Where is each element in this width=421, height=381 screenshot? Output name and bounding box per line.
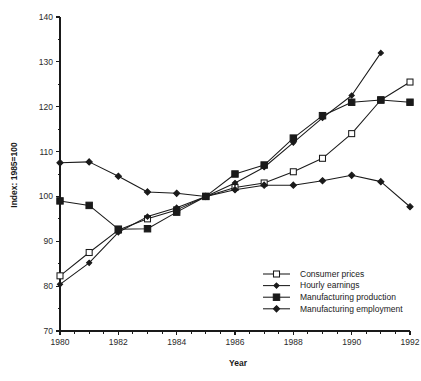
- data-point: [319, 178, 325, 184]
- y-tick-label: 120: [39, 102, 53, 112]
- y-tick-label: 90: [44, 236, 54, 246]
- x-tick-label: 1990: [342, 337, 361, 347]
- legend-marker: [274, 271, 280, 277]
- data-point: [319, 112, 325, 118]
- data-point: [86, 159, 92, 165]
- series-line: [60, 82, 410, 276]
- legend-label: Hourly earnings: [300, 280, 360, 290]
- data-point: [115, 173, 121, 179]
- y-tick-label: 70: [44, 326, 54, 336]
- y-axis-title: Index: 1985=100: [9, 142, 19, 208]
- data-point: [290, 169, 296, 175]
- legend-marker: [273, 306, 279, 312]
- data-point: [144, 189, 150, 195]
- data-point: [86, 202, 92, 208]
- data-point: [349, 131, 355, 137]
- data-point: [407, 79, 413, 85]
- series-line: [60, 100, 410, 229]
- data-point: [86, 250, 92, 256]
- data-point: [261, 162, 267, 168]
- x-axis-ticks: [60, 331, 410, 335]
- x-axis-tick-labels: 1980198219841986198819901992: [51, 337, 420, 347]
- data-point: [290, 135, 296, 141]
- legend-marker: [274, 283, 279, 288]
- x-axis-title: Year: [229, 358, 248, 368]
- data-point: [57, 273, 63, 279]
- legend-label: Consumer prices: [300, 269, 364, 279]
- chart-legend: Consumer pricesHourly earningsManufactur…: [263, 269, 403, 314]
- y-tick-label: 80: [44, 281, 54, 291]
- legend-label: Manufacturing production: [300, 292, 396, 302]
- y-tick-label: 140: [39, 12, 53, 22]
- legend-item-consumer-prices[interactable]: Consumer prices: [263, 269, 364, 279]
- series-line: [60, 53, 381, 284]
- data-point: [232, 171, 238, 177]
- legend-label: Manufacturing employment: [300, 304, 403, 314]
- x-tick-label: 1984: [167, 337, 186, 347]
- data-point: [115, 226, 121, 232]
- x-tick-label: 1988: [284, 337, 303, 347]
- data-point: [144, 226, 150, 232]
- legend-item-hourly-earnings[interactable]: Hourly earnings: [263, 280, 360, 290]
- data-point: [57, 198, 63, 204]
- x-tick-label: 1982: [109, 337, 128, 347]
- data-point: [378, 97, 384, 103]
- legend-item-manufacturing-production[interactable]: Manufacturing production: [263, 292, 396, 302]
- data-point: [290, 182, 296, 188]
- legend-marker: [273, 294, 279, 300]
- data-point: [174, 190, 180, 196]
- y-tick-label: 100: [39, 191, 53, 201]
- data-point: [349, 172, 355, 178]
- data-point: [407, 99, 413, 105]
- series-hourly-earnings: [57, 50, 383, 287]
- data-point: [173, 209, 179, 215]
- y-tick-label: 110: [39, 147, 53, 157]
- line-chart: 708090100110120130140 198019821984198619…: [0, 0, 421, 381]
- chart-container: 708090100110120130140 198019821984198619…: [0, 0, 421, 381]
- series-consumer-prices: [57, 79, 413, 279]
- legend-item-manufacturing-employment[interactable]: Manufacturing employment: [263, 304, 403, 314]
- y-axis-tick-labels: 708090100110120130140: [39, 12, 53, 336]
- x-tick-label: 1992: [401, 337, 420, 347]
- series-manufacturing-production: [57, 97, 413, 233]
- data-series-layer: [57, 50, 413, 287]
- data-point: [348, 99, 354, 105]
- x-tick-label: 1986: [226, 337, 245, 347]
- y-tick-label: 130: [39, 57, 53, 67]
- x-tick-label: 1980: [51, 337, 70, 347]
- data-point: [320, 155, 326, 161]
- data-point: [57, 160, 63, 166]
